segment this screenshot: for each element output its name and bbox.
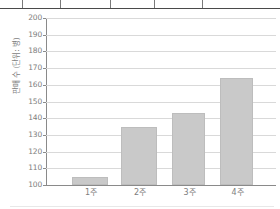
gridline-170: 170 — [46, 68, 276, 69]
table-cell — [110, 0, 154, 8]
ytick-label-100: 100 — [28, 181, 42, 189]
table-cell — [154, 0, 202, 8]
gridline-190: 190 — [46, 35, 276, 36]
ytick-mark-180 — [43, 51, 46, 52]
ytick-label-110: 110 — [28, 165, 42, 173]
y-axis-title: 판매 수 (단위: 병) — [12, 26, 21, 106]
ytick-label-170: 170 — [28, 64, 42, 72]
gridline-baseline-100: 100 — [46, 185, 276, 186]
ytick-label-120: 120 — [28, 148, 42, 156]
ytick-mark-160 — [43, 85, 46, 86]
gridline-180: 180 — [46, 51, 276, 52]
ytick-mark-140 — [43, 118, 46, 119]
ytick-label-150: 150 — [28, 98, 42, 106]
ytick-label-160: 160 — [28, 81, 42, 89]
ytick-label-200: 200 — [28, 14, 42, 22]
ytick-mark-100 — [43, 185, 46, 186]
plot-area: 200 190 180 170 160 150 140 130 — [46, 18, 276, 185]
xtick-label-week-2: 2주 — [134, 189, 146, 197]
ytick-label-190: 190 — [28, 31, 42, 39]
bar-chart: 판매 수 (단위: 병) 200 190 180 170 160 150 — [0, 9, 280, 209]
bar-week-3[interactable]: 3주 — [172, 113, 205, 185]
truncated-table-strip — [0, 0, 280, 9]
bar-week-2[interactable]: 2주 — [121, 127, 157, 186]
table-cell — [60, 0, 110, 8]
xtick-label-week-3: 3주 — [183, 189, 195, 197]
bar-week-4[interactable]: 4주 — [220, 78, 253, 185]
bottom-divider — [10, 206, 274, 207]
ytick-mark-170 — [43, 68, 46, 69]
ytick-label-180: 180 — [28, 48, 42, 56]
xtick-label-week-1: 1주 — [85, 189, 97, 197]
ytick-mark-130 — [43, 135, 46, 136]
table-row — [0, 0, 280, 9]
ytick-label-130: 130 — [28, 131, 42, 139]
gridline-200: 200 — [46, 18, 276, 19]
ytick-mark-150 — [43, 102, 46, 103]
table-cell — [0, 0, 22, 8]
ytick-mark-200 — [43, 18, 46, 19]
ytick-label-140: 140 — [28, 114, 42, 122]
ytick-mark-110 — [43, 168, 46, 169]
table-cell — [22, 0, 60, 8]
bar-week-1[interactable]: 1주 — [72, 177, 108, 185]
ytick-mark-190 — [43, 35, 46, 36]
xtick-label-week-4: 4주 — [231, 189, 243, 197]
table-cell — [202, 0, 244, 8]
ytick-mark-120 — [43, 152, 46, 153]
